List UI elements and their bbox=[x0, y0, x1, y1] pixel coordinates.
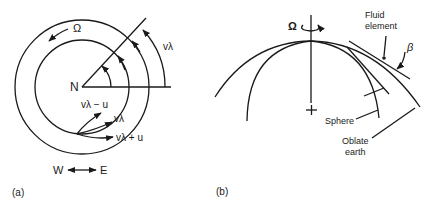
fluid-element-label-2: element bbox=[365, 21, 398, 31]
sphere-tangent-line bbox=[347, 47, 389, 94]
beta-label: β bbox=[406, 41, 414, 53]
vlambda-plus-u-label: vλ + u bbox=[116, 132, 143, 143]
oblate-label-1: Oblate bbox=[342, 136, 369, 146]
sphere-label: Sphere bbox=[325, 116, 354, 126]
panel-a: N Ω vλ vλ − u vλ vλ + u W E (a) bbox=[12, 18, 173, 198]
normal-marker bbox=[364, 88, 384, 96]
oblate-earth-curve bbox=[215, 41, 420, 107]
caption-b: (b) bbox=[216, 186, 228, 197]
outer-circle-arrow bbox=[132, 41, 140, 52]
oblate-label-2: earth bbox=[345, 147, 366, 157]
panel-b: Ω Fluid element β Sphere Oblate earth (b… bbox=[215, 10, 420, 197]
omega-label-a: Ω bbox=[73, 22, 81, 34]
sphere-curve bbox=[247, 41, 379, 121]
sphere-leader bbox=[356, 110, 378, 119]
omega-label-b: Ω bbox=[288, 20, 297, 32]
beta-arrow bbox=[397, 52, 405, 69]
fluid-element-dot bbox=[382, 56, 386, 60]
center-label-n: N bbox=[70, 80, 79, 94]
vlambda-arc-label: vλ bbox=[163, 41, 173, 52]
fluid-element-label-1: Fluid bbox=[365, 10, 385, 20]
east-label: E bbox=[100, 164, 107, 176]
west-label: W bbox=[53, 164, 64, 176]
inner-circle-arrow bbox=[118, 56, 125, 70]
omega-rotation-arrow bbox=[302, 25, 319, 31]
vlambda-label: vλ bbox=[114, 113, 124, 124]
vlambda-minus-u-label: vλ − u bbox=[81, 99, 108, 110]
inner-angle-arc bbox=[102, 66, 111, 87]
caption-a: (a) bbox=[12, 187, 24, 198]
fluid-element-leader bbox=[384, 36, 386, 56]
omega-arrow bbox=[49, 29, 68, 41]
figure-canvas: N Ω vλ vλ − u vλ vλ + u W E (a) bbox=[0, 0, 431, 206]
outer-arc-vlambda bbox=[143, 30, 165, 87]
